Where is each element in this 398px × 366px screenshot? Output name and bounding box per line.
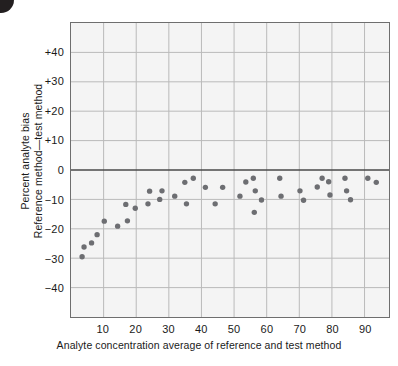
data-point bbox=[342, 176, 347, 181]
data-point bbox=[102, 218, 107, 223]
y-axis-tick-label: +40 bbox=[45, 46, 64, 58]
y-axis-tick-label: −30 bbox=[45, 253, 64, 265]
data-point bbox=[277, 176, 282, 181]
data-point bbox=[145, 201, 150, 206]
y-axis-tick-label: −40 bbox=[45, 282, 64, 294]
x-axis-tick-label: 90 bbox=[359, 323, 372, 335]
data-point bbox=[220, 185, 225, 190]
x-axis-tick-label: 20 bbox=[129, 323, 142, 335]
data-point bbox=[344, 188, 349, 193]
data-point bbox=[81, 244, 86, 249]
data-point bbox=[212, 201, 217, 206]
data-point bbox=[147, 188, 152, 193]
y-axis-tick-label: +10 bbox=[45, 134, 64, 146]
data-point bbox=[133, 206, 138, 211]
data-point bbox=[374, 180, 379, 185]
plot-area bbox=[70, 22, 390, 318]
x-axis-tick-label: 40 bbox=[195, 323, 208, 335]
data-point bbox=[184, 201, 189, 206]
data-point bbox=[243, 179, 248, 184]
page-corner-dot-icon bbox=[0, 0, 14, 13]
data-point bbox=[319, 176, 324, 181]
data-point bbox=[253, 188, 258, 193]
data-point bbox=[89, 240, 94, 245]
data-point bbox=[182, 180, 187, 185]
data-point bbox=[94, 232, 99, 237]
data-point bbox=[123, 202, 128, 207]
data-point bbox=[326, 179, 331, 184]
y-axis-tick-label: +20 bbox=[45, 105, 64, 117]
data-point bbox=[157, 197, 162, 202]
data-point bbox=[191, 176, 196, 181]
y-axis-tick-label: +30 bbox=[45, 75, 64, 87]
x-axis-tick-label: 10 bbox=[96, 323, 109, 335]
y-axis-tick-label: −10 bbox=[45, 194, 64, 206]
data-point bbox=[327, 192, 332, 197]
data-point bbox=[252, 210, 257, 215]
data-point bbox=[365, 176, 370, 181]
data-point bbox=[251, 176, 256, 181]
data-point bbox=[278, 193, 283, 198]
data-point bbox=[79, 254, 84, 259]
x-axis-tick-label: 30 bbox=[162, 323, 175, 335]
data-point bbox=[237, 193, 242, 198]
data-point bbox=[172, 193, 177, 198]
data-point bbox=[297, 188, 302, 193]
data-point bbox=[348, 197, 353, 202]
x-axis-tick-label: 60 bbox=[261, 323, 274, 335]
x-axis-tick-label: 80 bbox=[326, 323, 339, 335]
data-point bbox=[301, 198, 306, 203]
data-point bbox=[315, 184, 320, 189]
data-point bbox=[115, 223, 120, 228]
data-point bbox=[159, 188, 164, 193]
data-points-layer bbox=[71, 23, 389, 317]
x-axis-tick-label: 50 bbox=[228, 323, 241, 335]
data-point bbox=[125, 218, 130, 223]
y-axis-tick-label: −20 bbox=[45, 223, 64, 235]
data-point bbox=[203, 185, 208, 190]
scatter-plot-figure: +40+30+20+100−10−20−30−40 Percent analyt… bbox=[0, 0, 398, 366]
data-point bbox=[259, 197, 264, 202]
x-axis-tick-labels: 102030405060708090 bbox=[70, 323, 390, 339]
y-axis-tick-label: 0 bbox=[58, 164, 64, 176]
x-axis-title: Analyte concentration average of referen… bbox=[0, 339, 398, 351]
x-axis-tick-label: 70 bbox=[293, 323, 306, 335]
y-axis-tick-labels: +40+30+20+100−10−20−30−40 bbox=[24, 22, 64, 318]
